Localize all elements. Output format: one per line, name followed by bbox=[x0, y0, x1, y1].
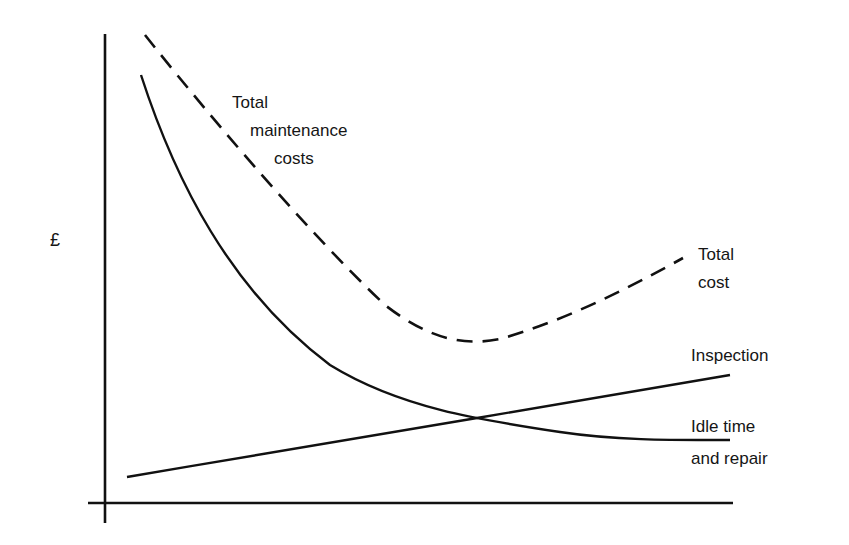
total-maintenance-label-line3: costs bbox=[274, 148, 314, 169]
inspection-label: Inspection bbox=[691, 345, 769, 366]
total-maintenance-label-line1: Total bbox=[232, 92, 268, 113]
total-cost-label-line2: cost bbox=[698, 272, 729, 293]
total-maintenance-label-line2: maintenance bbox=[250, 120, 347, 141]
idle-time-repair-curve bbox=[141, 75, 730, 440]
total-cost-curve bbox=[145, 35, 683, 342]
total-cost-label-line1: Total bbox=[698, 244, 734, 265]
y-axis-label: £ bbox=[50, 230, 60, 251]
idle-time-label-line2: and repair bbox=[691, 448, 768, 469]
inspection-line bbox=[127, 375, 730, 477]
idle-time-label-line1: Idle time bbox=[691, 416, 755, 437]
